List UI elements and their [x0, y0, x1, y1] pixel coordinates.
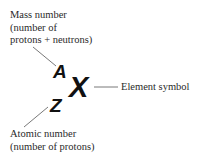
- mass-label-line-3: protons + neutrons): [10, 34, 92, 47]
- mass-number-label: Mass number (number of protons + neutron…: [10, 9, 92, 47]
- mass-label-line-1: Mass number: [10, 9, 92, 22]
- element-symbol: X: [69, 73, 88, 102]
- mass-number-symbol: A: [53, 62, 67, 81]
- atomic-number-label: Atomic number (number of protons): [10, 128, 95, 153]
- atomic-label-line-1: Atomic number: [10, 128, 95, 141]
- atomic-label-line-2: (number of protons): [10, 141, 95, 154]
- mass-label-line-2: (number of: [10, 22, 92, 35]
- atomic-leader-line: [24, 107, 48, 127]
- element-symbol-label: Element symbol: [121, 81, 190, 94]
- atomic-number-symbol: Z: [50, 96, 62, 115]
